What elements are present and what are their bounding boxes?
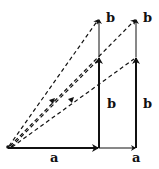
label-a-bottom-right: a — [132, 150, 141, 165]
mid-arrowhead-icon — [68, 97, 74, 103]
label-a-bottom-left: a — [50, 150, 59, 165]
label-b-top-right: b — [143, 10, 152, 25]
dashed-line-to-mid-left — [11, 60, 98, 147]
dashed-line-to-top-right — [10, 20, 135, 146]
label-b-mid-left: b — [107, 96, 116, 111]
dashed-resultant-lines — [9, 20, 135, 147]
vector-diagram: b b b b a a — [0, 0, 159, 169]
label-b-top-left: b — [106, 10, 115, 25]
origin-dot — [6, 145, 10, 149]
dashed-line-to-top-left — [9, 20, 98, 146]
label-b-mid-right: b — [143, 96, 152, 111]
